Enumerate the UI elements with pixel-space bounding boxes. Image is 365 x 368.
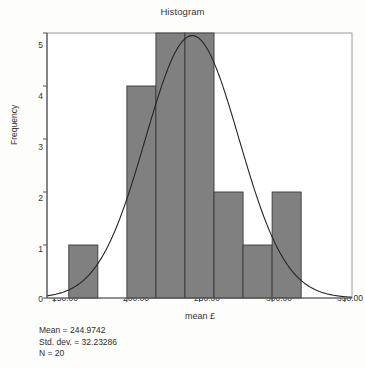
- stat-mean: Mean = 244.9742: [39, 325, 117, 337]
- histogram-bar: [69, 245, 98, 298]
- histogram-bar: [185, 33, 214, 298]
- stat-n: N = 20: [39, 348, 117, 360]
- histogram-figure: Histogram Frequency mean £ 5 4 3 2 1 0 1…: [0, 0, 365, 368]
- stat-std-dev: Std. dev. = 32.23286: [39, 337, 117, 349]
- statistics-annotation: Mean = 244.9742 Std. dev. = 32.23286 N =…: [39, 325, 117, 360]
- histogram-bar: [214, 192, 243, 298]
- histogram-bar: [243, 245, 272, 298]
- plot-area: [0, 0, 365, 368]
- histogram-bar: [156, 33, 185, 298]
